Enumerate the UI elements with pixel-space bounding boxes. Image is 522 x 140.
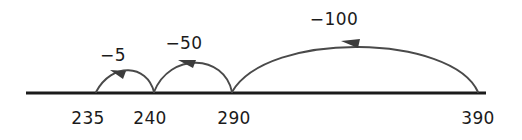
- jump-arc-minus-100: [232, 39, 478, 92]
- jump-arc-path-minus-100: [232, 47, 478, 92]
- tick-label-240: 240: [133, 108, 167, 128]
- jump-arc-minus-5: [96, 70, 154, 92]
- tick-label-290: 290: [217, 108, 251, 128]
- jump-arrowhead-minus-50: [178, 60, 196, 68]
- jump-label-minus-50: −50: [165, 33, 202, 53]
- jump-label-minus-5: −5: [100, 45, 126, 65]
- tick-label-390: 390: [461, 108, 495, 128]
- jump-arc-minus-50: [154, 60, 232, 92]
- jump-label-minus-100: −100: [310, 9, 358, 29]
- number-line-diagram: −5 −50 −100 235 240 290 390: [0, 0, 522, 140]
- number-line-canvas: −5 −50 −100 235 240 290 390: [0, 0, 522, 140]
- tick-label-235: 235: [71, 108, 105, 128]
